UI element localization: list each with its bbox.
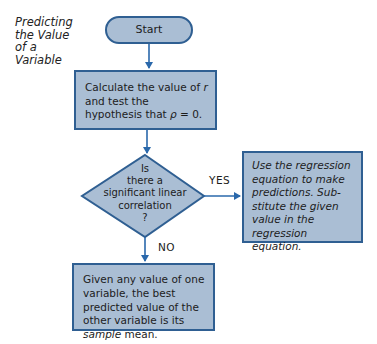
calc-text-2: and test the hypothesis that: [85, 95, 170, 121]
start-label: Start: [136, 23, 163, 37]
no-emphasis: sample: [83, 328, 121, 340]
decision-label: Is there a significant linear correlatio…: [92, 163, 198, 224]
no-label: NO: [158, 241, 175, 253]
calculate-node: Calculate the value of r and test the hy…: [74, 70, 217, 130]
no-outcome-node: Given any value of one variable, the bes…: [72, 263, 215, 331]
start-node: Start: [105, 16, 193, 44]
calc-rho: ρ: [170, 108, 177, 120]
calc-var-r: r: [203, 81, 207, 93]
yes-outcome-node: Use the regression equation to make pred…: [242, 151, 363, 243]
calc-text-3: = 0.: [177, 108, 203, 120]
yes-outcome-text: Use the regression equation to make pred…: [252, 159, 351, 252]
calc-text-1: Calculate the value of: [85, 81, 203, 93]
no-text-2: mean.: [121, 328, 157, 340]
yes-label: YES: [209, 174, 230, 186]
diagram-title: Predicting the Value of a Variable: [15, 16, 73, 66]
no-text-1: Given any value of one variable, the bes…: [83, 273, 204, 326]
